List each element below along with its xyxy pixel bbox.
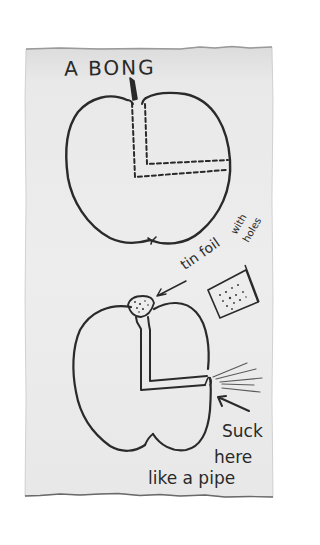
here-label: here	[214, 449, 252, 466]
like-a-pipe-label: like a pipe	[148, 470, 235, 487]
suck-label: Suck	[222, 423, 263, 440]
sketch-title: A BONG	[64, 57, 156, 79]
